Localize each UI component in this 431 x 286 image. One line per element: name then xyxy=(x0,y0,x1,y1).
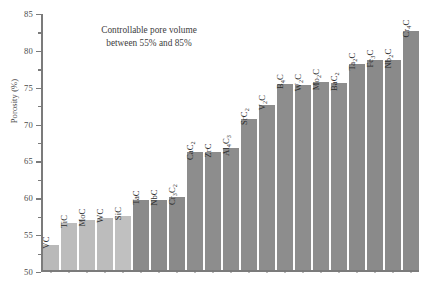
bar-label-Nb2C: Nb2C xyxy=(385,48,394,68)
bar-slot-V2C: V2C xyxy=(259,14,275,270)
x-tick-Fe3C xyxy=(375,270,376,273)
y-tick-label-80: 80 xyxy=(3,46,33,56)
y-tick-60 xyxy=(36,198,41,199)
bar-Nb2C[interactable]: Nb2C xyxy=(385,60,401,270)
annotation-line-1: Controllable pore volume xyxy=(64,24,234,37)
bar-VC[interactable]: VC xyxy=(43,245,59,271)
bar-slot-Ta2C: Ta2C xyxy=(349,14,365,270)
bar-label-Cr3C2: Cr3C2 xyxy=(168,184,177,205)
bar-label-B4C: B4C xyxy=(277,74,286,89)
bar-WC[interactable]: WC xyxy=(97,218,113,270)
y-minor-tick-77.5 xyxy=(38,69,41,70)
bar-slot-W2C: W2C xyxy=(295,14,311,270)
y-minor-tick-72.5 xyxy=(38,106,41,107)
bar-slot-Mo2C: Mo2C xyxy=(313,14,329,270)
y-tick-50 xyxy=(36,272,41,273)
bar-series: VCTiCMoCWCSiCTaCNbCCr3C2CaC2ZrCAl4C3SrC2… xyxy=(43,14,419,270)
bar-label-MoC: MoC xyxy=(78,209,87,227)
x-tick-Cr4C xyxy=(411,270,412,273)
bar-label-Cr4C: Cr4C xyxy=(403,20,412,38)
x-tick-B4C xyxy=(285,270,286,273)
x-tick-V2C xyxy=(267,270,268,273)
y-tick-label-75: 75 xyxy=(3,83,33,93)
bar-slot-TiC: TiC xyxy=(61,14,77,270)
bar-SrC2[interactable]: SrC2 xyxy=(241,119,257,271)
bar-CaC2[interactable]: CaC2 xyxy=(187,152,203,270)
chart-annotation: Controllable pore volume between 55% and… xyxy=(64,24,234,50)
bar-label-W2C: W2C xyxy=(295,74,304,91)
bar-W2C[interactable]: W2C xyxy=(295,85,311,271)
x-tick-MoC xyxy=(86,270,87,273)
x-tick-Mo2C xyxy=(321,270,322,273)
bar-label-WC: WC xyxy=(96,209,105,223)
x-tick-WC xyxy=(104,270,105,273)
bar-slot-Cr4C: Cr4C xyxy=(403,14,419,270)
y-tick-80 xyxy=(36,51,41,52)
bar-BaC2[interactable]: BaC2 xyxy=(331,83,347,270)
x-tick-Al4C3 xyxy=(231,270,232,273)
bar-slot-Nb2C: Nb2C xyxy=(385,14,401,270)
x-tick-VC xyxy=(50,270,51,273)
bar-label-V2C: V2C xyxy=(259,95,268,110)
x-tick-Nb2C xyxy=(393,270,394,273)
bar-label-CaC2: CaC2 xyxy=(186,141,195,160)
y-minor-tick-52.5 xyxy=(38,254,41,255)
bar-V2C[interactable]: V2C xyxy=(259,105,275,271)
bar-B4C[interactable]: B4C xyxy=(277,84,293,270)
x-tick-Cr3C2 xyxy=(177,270,178,273)
bar-label-BaC2: BaC2 xyxy=(331,72,340,91)
bar-slot-VC: VC xyxy=(43,14,59,270)
bar-label-TaC: TaC xyxy=(132,190,141,205)
bar-Ta2C[interactable]: Ta2C xyxy=(349,64,365,270)
x-tick-TiC xyxy=(68,270,69,273)
y-tick-75 xyxy=(36,88,41,89)
bar-slot-SrC2: SrC2 xyxy=(241,14,257,270)
plot-area: 5055606570758085 VCTiCMoCWCSiCTaCNbCCr3C… xyxy=(41,14,419,272)
y-tick-label-70: 70 xyxy=(3,120,33,130)
bar-TiC[interactable]: TiC xyxy=(61,223,77,270)
y-minor-tick-82.5 xyxy=(38,32,41,33)
bar-TaC[interactable]: TaC xyxy=(133,200,149,271)
x-tick-TaC xyxy=(140,270,141,273)
bar-label-VC: VC xyxy=(42,237,51,249)
bar-label-Mo2C: Mo2C xyxy=(313,69,322,90)
x-tick-Ta2C xyxy=(357,270,358,273)
y-tick-label-65: 65 xyxy=(3,156,33,166)
y-minor-tick-67.5 xyxy=(38,143,41,144)
y-tick-label-50: 50 xyxy=(3,267,33,277)
bar-Fe3C[interactable]: Fe3C xyxy=(367,60,383,270)
y-minor-tick-57.5 xyxy=(38,217,41,218)
bar-slot-CaC2: CaC2 xyxy=(187,14,203,270)
bar-slot-NbC: NbC xyxy=(151,14,167,270)
y-tick-label-55: 55 xyxy=(3,230,33,240)
y-minor-tick-62.5 xyxy=(38,180,41,181)
bar-slot-WC: WC xyxy=(97,14,113,270)
bar-label-SrC2: SrC2 xyxy=(240,108,249,125)
x-tick-SrC2 xyxy=(249,270,250,273)
y-tick-label-85: 85 xyxy=(3,9,33,19)
x-tick-W2C xyxy=(303,270,304,273)
bar-slot-Cr3C2: Cr3C2 xyxy=(169,14,185,270)
y-tick-65 xyxy=(36,161,41,162)
bar-ZrC[interactable]: ZrC xyxy=(205,152,221,270)
x-tick-ZrC xyxy=(213,270,214,273)
bar-NbC[interactable]: NbC xyxy=(151,200,167,271)
bar-slot-Fe3C: Fe3C xyxy=(367,14,383,270)
x-tick-NbC xyxy=(159,270,160,273)
bar-slot-MoC: MoC xyxy=(79,14,95,270)
bar-Al4C3[interactable]: Al4C3 xyxy=(223,148,239,270)
porosity-bar-chart: Porosity (%) 5055606570758085 VCTiCMoCWC… xyxy=(0,0,431,286)
bar-SiC[interactable]: SiC xyxy=(115,216,131,271)
bar-slot-B4C: B4C xyxy=(277,14,293,270)
bar-label-NbC: NbC xyxy=(150,189,159,206)
bar-label-Ta2C: Ta2C xyxy=(349,53,358,71)
x-tick-SiC xyxy=(122,270,123,273)
x-tick-CaC2 xyxy=(195,270,196,273)
bar-MoC[interactable]: MoC xyxy=(79,220,95,271)
bar-slot-Al4C3: Al4C3 xyxy=(223,14,239,270)
bar-slot-TaC: TaC xyxy=(133,14,149,270)
bar-label-Fe3C: Fe3C xyxy=(367,49,376,67)
bar-Cr3C2[interactable]: Cr3C2 xyxy=(169,197,185,271)
bar-Mo2C[interactable]: Mo2C xyxy=(313,82,329,271)
bar-Cr4C[interactable]: Cr4C xyxy=(403,31,419,271)
